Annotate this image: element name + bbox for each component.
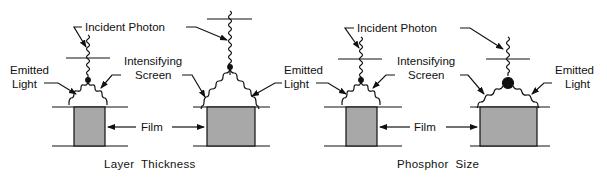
emitted-light-label-2b: Light <box>284 78 310 90</box>
film-block <box>207 107 255 146</box>
incident-photon-label-2: Incident Photon <box>357 22 437 34</box>
caption-phosphor-size: Phosphor Size <box>397 158 479 170</box>
emitted-light-wave-left <box>477 86 503 108</box>
phosphor-dot <box>359 78 364 83</box>
incident-photon-leader-2 <box>186 27 227 40</box>
emitted-light-wave-right <box>361 82 380 105</box>
emitted-light-label-2a: Emitted <box>284 64 323 76</box>
intensifying-leader-1 <box>101 75 121 88</box>
intensifying-leader-2 <box>182 75 205 97</box>
emitted-light-label-1b: Light <box>12 78 38 90</box>
emitted-light-label-4a: Emitted <box>555 64 594 76</box>
intensifying-label-1a: Intensifying <box>124 55 182 67</box>
film-label-2: Film <box>414 121 436 133</box>
emitted-light-wave-right <box>230 69 259 109</box>
film-block <box>74 107 105 146</box>
emitted-light-leader-3 <box>316 83 346 94</box>
emitted-light-label-1a: Emitted <box>10 64 49 76</box>
caption-layer-thickness: Layer Thickness <box>104 158 196 170</box>
panel-thick-layer <box>193 11 270 146</box>
intensifying-leader-3 <box>373 75 395 88</box>
emitted-light-leader-4 <box>532 83 552 94</box>
labels-left: Incident Photon Emitted Light Intensifyi… <box>10 21 323 170</box>
phosphor-dot <box>86 78 91 83</box>
emitted-light-leader-1 <box>44 83 76 94</box>
incident-photon-label: Incident Photon <box>85 21 165 33</box>
film-label-1: Film <box>141 121 163 133</box>
incident-photon-wave <box>87 35 90 78</box>
panel-thin-layer <box>52 35 128 146</box>
incident-photon-wave <box>360 37 363 79</box>
emitted-light-leader-2 <box>252 83 282 96</box>
panel-small-phosphor <box>324 37 402 146</box>
intensifying-label-1b: Screen <box>135 69 171 81</box>
phosphor-dot <box>228 65 233 70</box>
intensifying-screen-diagram: Incident Photon Emitted Light Intensifyi… <box>0 0 607 184</box>
emitted-light-wave-left <box>69 82 88 105</box>
intensifying-leader-4 <box>460 75 484 94</box>
incident-photon-leader-4 <box>460 28 503 49</box>
intensifying-label-2b: Screen <box>408 69 444 81</box>
labels-right: Incident Photon Intensifying Screen Emit… <box>357 22 594 170</box>
diagram-canvas: Incident Photon Emitted Light Intensifyi… <box>0 0 607 184</box>
intensifying-label-2a: Intensifying <box>397 55 455 67</box>
film-block <box>480 107 537 146</box>
emitted-light-label-4b: Light <box>565 78 591 90</box>
emitted-light-wave-left <box>201 69 230 109</box>
emitted-light-wave-right <box>88 82 107 105</box>
emitted-light-wave-right <box>513 86 539 108</box>
film-block <box>346 107 377 146</box>
phosphor-dot-large <box>503 78 514 89</box>
incident-photon-wave <box>507 37 510 76</box>
